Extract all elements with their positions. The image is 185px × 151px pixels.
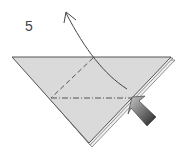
fold-illustration [0, 0, 185, 151]
paper-layers [12, 57, 175, 147]
push-arrow-icon [128, 96, 156, 126]
origami-diagram: 5 [0, 0, 185, 151]
